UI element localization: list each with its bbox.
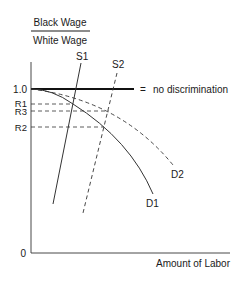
s2-supply-line: [83, 73, 117, 213]
x-axis-label: Amount of Labor: [156, 258, 231, 269]
d1-label: D1: [146, 198, 159, 209]
tick-label-one: 1.0: [13, 84, 27, 95]
equals-sign: =: [140, 84, 146, 95]
y-label-numerator: Black Wage: [34, 17, 87, 28]
no-discrimination-label: no discrimination: [153, 84, 228, 95]
labor-market-diagram: Black Wage White Wage 1.0 R1 R3 R2 0 Amo…: [0, 0, 245, 281]
tick-label-zero: 0: [20, 248, 26, 259]
tick-label-r3: R3: [15, 106, 27, 117]
tick-label-r2: R2: [15, 122, 27, 133]
s1-label: S1: [76, 51, 89, 62]
d2-label: D2: [171, 169, 184, 180]
s1-supply-line: [53, 63, 81, 204]
s2-label: S2: [112, 59, 125, 70]
y-label-denominator: White Wage: [33, 35, 88, 46]
